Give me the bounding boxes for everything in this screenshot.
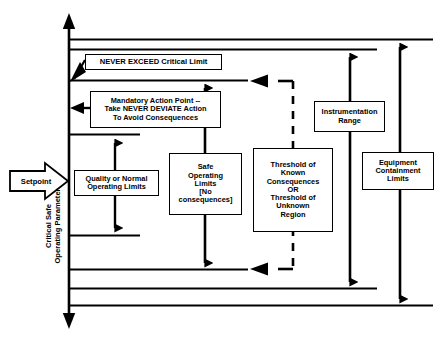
equipment-containment-limits-box: Equipment Containment Limits <box>362 152 434 190</box>
never-exceed-pointer-arrow-icon <box>70 60 86 82</box>
diagram-canvas: NEVER EXCEED Critical Limit Mandatory Ac… <box>0 0 443 341</box>
mandatory-action-point-box: Mandatory Action Point -- Take NEVER DEV… <box>90 91 221 128</box>
axis-arrow-down-icon <box>63 313 75 329</box>
axis-arrow-up-icon <box>63 13 75 29</box>
threshold-upper-arrow-icon <box>250 75 276 88</box>
threshold-of-known-consequences-box: Threshold of Known Consequences OR Thres… <box>253 148 333 232</box>
instrumentation-range-box: Instrumentation Range <box>314 101 385 132</box>
safe-operating-limits-box: Safe Operating Limits [No consequences] <box>169 153 242 215</box>
never-exceed-critical-limit-box: NEVER EXCEED Critical Limit <box>85 54 222 70</box>
threshold-lower-arrow-icon <box>250 263 268 276</box>
critical-safe-operating-parameter-axis-label: Critical Safe Operating Parameter <box>41 171 65 281</box>
mandatory-pointer-arrow-icon <box>70 102 90 114</box>
quality-or-normal-operating-limits-box: Quality or Normal Operating Limits <box>74 170 159 196</box>
